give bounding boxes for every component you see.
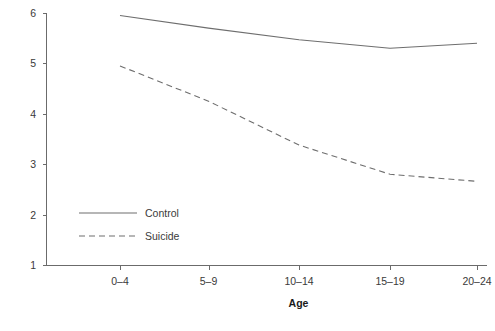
x-axis-ticks	[121, 266, 478, 270]
x-axis-title: Age	[289, 297, 309, 309]
y-axis-tick-label: 3	[10, 158, 36, 170]
y-axis-tick-label: 4	[10, 108, 36, 120]
chart-plot-area	[0, 0, 495, 331]
legend-label-suicide: Suicide	[145, 230, 179, 242]
series-line-suicide	[120, 66, 477, 181]
x-axis-tick-label: 15–19	[375, 275, 404, 287]
legend-line-samples	[79, 213, 137, 236]
chart-axes	[47, 13, 488, 266]
y-axis-tick-label: 2	[10, 209, 36, 221]
y-axis-tick-label: 1	[10, 259, 36, 271]
x-axis-tick-label: 10–14	[284, 275, 313, 287]
series-line-control	[120, 16, 477, 49]
x-axis-tick-label: 20–24	[462, 275, 491, 287]
legend-label-control: Control	[145, 207, 179, 219]
x-axis-tick-label: 5–9	[200, 275, 218, 287]
chart-series-group	[120, 16, 477, 182]
line-chart: 123456 0–45–910–1415–1920–24 Age Control…	[0, 0, 495, 331]
y-axis-ticks	[43, 14, 47, 266]
x-axis-tick-label: 0–4	[111, 275, 129, 287]
y-axis-tick-label: 5	[10, 57, 36, 69]
y-axis-tick-label: 6	[10, 7, 36, 19]
